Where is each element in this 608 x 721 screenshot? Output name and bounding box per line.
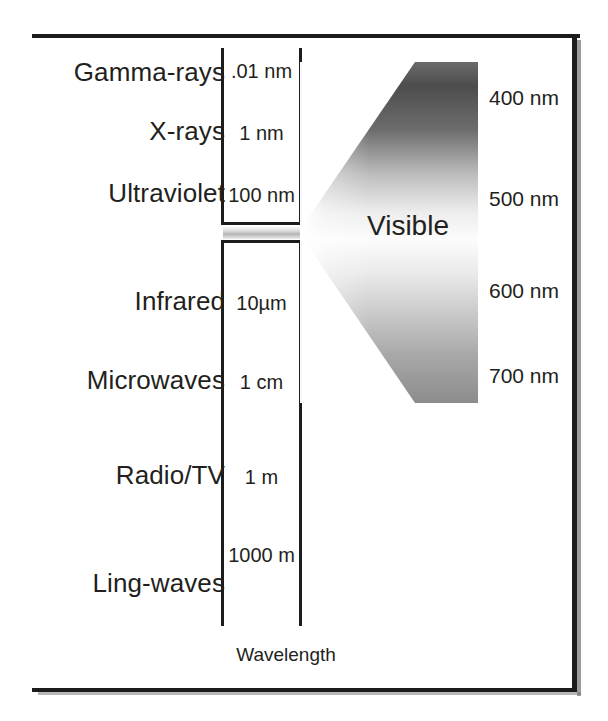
visible-scale-tick-400nm: 400 nm: [489, 87, 559, 108]
band-label-microwaves: Microwaves: [87, 367, 225, 393]
wavelength-value-ultraviolet: 100 nm: [221, 185, 302, 205]
figure-frame-top-rule: [32, 34, 580, 38]
wavelength-value-gamma-rays: .01 nm: [221, 61, 302, 81]
band-label-ling-waves: Ling-waves: [92, 570, 225, 596]
visible-scale-tick-700nm: 700 nm: [489, 365, 559, 386]
figure-frame-bottom-shadow: [38, 692, 581, 695]
wavelength-value-radio-tv: 1 m: [221, 467, 302, 487]
band-label-ultraviolet: Ultraviolet: [108, 180, 225, 206]
wavelength-column-cap-upper: [221, 222, 302, 225]
band-label-x-rays: X-rays: [149, 118, 225, 144]
wavelength-axis-caption: Wavelength: [221, 645, 351, 664]
wavelength-column-cap-lower: [221, 240, 302, 243]
figure-frame-right-shadow: [577, 40, 581, 696]
wavelength-value-ling-waves: 1000 m: [221, 545, 302, 565]
band-label-radio-tv: Radio/TV: [116, 462, 225, 488]
wavelength-value-infrared: 10µm: [221, 293, 302, 313]
visible-beam-neck: [223, 226, 309, 239]
visible-scale-tick-500nm: 500 nm: [489, 188, 559, 209]
wavelength-value-x-rays: 1 nm: [221, 123, 302, 143]
electromagnetic-spectrum-figure: Gamma-rays X-rays Ultraviolet Infrared M…: [0, 0, 608, 721]
wavelength-value-microwaves: 1 cm: [221, 372, 302, 392]
visible-scale-tick-600nm: 600 nm: [489, 280, 559, 301]
visible-band-label: Visible: [348, 212, 468, 240]
band-label-gamma-rays: Gamma-rays: [74, 59, 225, 85]
band-label-infrared: Infrared: [135, 288, 225, 314]
